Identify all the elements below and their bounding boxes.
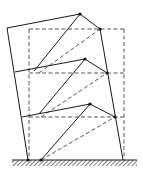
- joint-node: [98, 27, 101, 30]
- deformed-roof: [7, 14, 100, 29]
- deformed-left-column: [7, 28, 28, 160]
- deformed-floor-1: [22, 104, 115, 117]
- ground-hatch: [12, 160, 137, 166]
- deformed-right-column: [100, 29, 123, 160]
- undeformed-frame: [29, 29, 124, 160]
- joint-node: [26, 158, 29, 161]
- ground: [12, 160, 137, 166]
- undeformed-brace-2: [41, 117, 115, 160]
- joint-node: [88, 102, 91, 105]
- joint-node: [83, 57, 86, 60]
- joint-node: [113, 115, 116, 118]
- deformed-frame: [7, 14, 123, 160]
- joint-node: [39, 158, 42, 161]
- joint-node: [105, 71, 108, 74]
- braced-frame-diagram: [0, 0, 143, 178]
- deformed-brace-0: [34, 14, 80, 71]
- deformed-brace-1: [39, 59, 85, 114]
- nodes: [26, 12, 116, 161]
- undeformed-brace-0: [39, 29, 100, 73]
- undeformed-brace-1: [41, 73, 107, 117]
- joint-node: [78, 12, 81, 15]
